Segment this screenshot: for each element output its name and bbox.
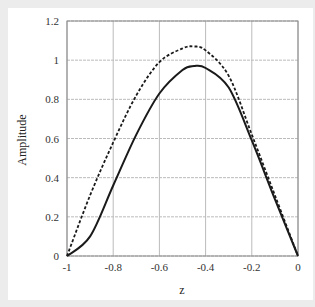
y-tick-label: 0: [54, 250, 60, 262]
grid-lines: [67, 21, 298, 256]
y-tick-label: 1.2: [45, 15, 59, 27]
y-tick-label: 0.2: [45, 211, 59, 223]
x-tick-label: 0: [295, 261, 301, 273]
y-tick-label: 0.8: [45, 93, 59, 105]
y-tick-label: 1: [54, 54, 60, 66]
y-axis-label: Amplitude: [15, 114, 29, 165]
y-tick-label: 0.4: [45, 172, 59, 184]
x-tick-label: -0.2: [243, 261, 260, 273]
dashed-series-line: [67, 46, 298, 256]
x-axis-label: z: [179, 283, 184, 297]
y-tick-label: 0.6: [45, 133, 59, 145]
solid-series-line: [67, 66, 298, 256]
x-tick-label: -0.4: [197, 261, 215, 273]
x-tick-label: -1: [62, 261, 71, 273]
x-axis-ticks: -1-0.8-0.6-0.4-0.20: [62, 261, 301, 273]
line-chart: -1-0.8-0.6-0.4-0.20 00.20.40.60.811.2 z …: [0, 0, 315, 307]
x-tick-label: -0.8: [104, 261, 122, 273]
y-axis-ticks: 00.20.40.60.811.2: [45, 15, 59, 262]
x-tick-label: -0.6: [151, 261, 169, 273]
data-series: [67, 46, 298, 256]
